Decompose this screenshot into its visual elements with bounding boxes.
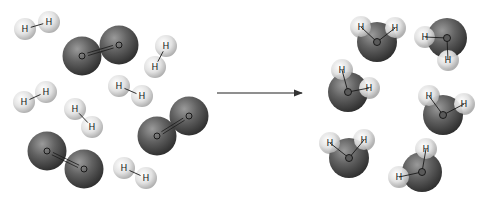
water-molecule: HH [350,16,406,62]
hydrogen-label: H [327,138,334,148]
oxygen-atom [63,37,102,76]
oxygen-label [444,35,451,42]
hydrogen-label: H [445,55,452,65]
hydrogen-label: H [139,91,146,101]
water-molecule: HH [414,18,467,71]
water-molecule: HH [328,59,380,112]
hydrogen-label: H [143,173,150,183]
hydrogen-label: H [72,104,79,114]
hydrogen-molecule: HH [64,98,103,138]
hydrogen-label: H [339,65,346,75]
hydrogen-label: H [22,24,29,34]
oxygen-atom [100,26,139,65]
hydrogen-label: H [422,32,429,42]
reactants-group: HHHHHHHHHHHH [13,11,209,189]
products-group: HHHHHHHHHHHH [319,16,475,192]
water-molecule: HH [388,138,442,192]
oxygen-label [346,155,353,162]
hydrogen-label: H [392,23,399,33]
hydrogen-label: H [121,163,128,173]
oxygen-molecule [138,97,209,156]
oxygen-label [419,169,426,176]
hydrogen-label: H [423,144,430,154]
oxygen-atom [65,150,104,189]
hydrogen-label: H [116,81,123,91]
hydrogen-label: H [361,135,368,145]
hydrogen-label: H [89,122,96,132]
hydrogen-label: H [461,99,468,109]
hydrogen-label: H [366,83,373,93]
hydrogen-label: H [163,41,170,51]
hydrogen-label: H [152,62,159,72]
water-molecule: HH [319,129,375,178]
hydrogen-label: H [426,91,433,101]
hydrogen-molecule: HH [108,75,153,107]
hydrogen-label: H [396,172,403,182]
oxygen-label [374,39,381,46]
oxygen-label [440,112,447,119]
hydrogen-label: H [46,17,53,27]
hydrogen-label: H [43,87,50,97]
hydrogen-molecule: HH [13,81,57,113]
hydrogen-molecule: HH [113,157,157,189]
oxygen-atom [170,97,209,136]
hydrogen-molecule: HH [144,35,177,78]
hydrogen-molecule: HH [14,11,60,40]
reaction-diagram: HHHHHHHHHHHH HHHHHHHHHHHH [0,0,482,206]
water-molecule: HH [418,85,475,135]
hydrogen-label: H [358,22,365,32]
oxygen-label [345,89,352,96]
oxygen-molecule [28,132,104,189]
oxygen-atom [28,132,67,171]
oxygen-molecule [63,26,139,76]
hydrogen-label: H [21,97,28,107]
